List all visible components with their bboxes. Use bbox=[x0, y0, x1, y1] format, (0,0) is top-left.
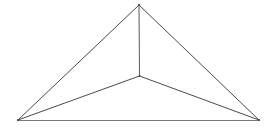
geometric-figure bbox=[0, 0, 272, 129]
vertex-bottom-left bbox=[17, 119, 19, 121]
vertex-bottom-right bbox=[258, 119, 260, 121]
edge-apex-interior bbox=[139, 5, 140, 76]
vertex-apex bbox=[138, 4, 140, 6]
vertex-interior bbox=[139, 75, 141, 77]
